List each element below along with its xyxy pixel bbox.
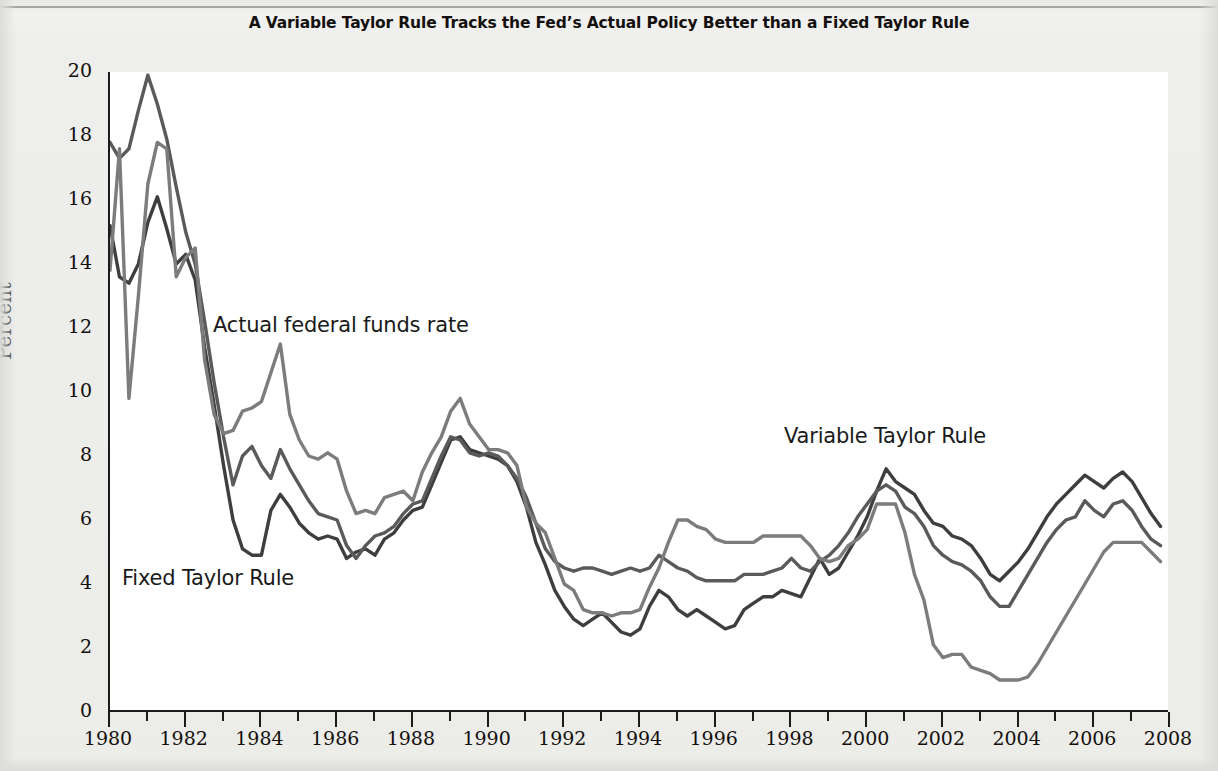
x-tick-mark-minor [146, 712, 148, 721]
y-axis-title: Percent [0, 282, 16, 360]
x-tick-mark-major [184, 712, 186, 727]
x-tick-mark-major [638, 712, 640, 727]
x-tick-mark-minor [827, 712, 829, 721]
x-tick-mark-major [562, 712, 564, 727]
x-tick-mark-major [789, 712, 791, 727]
x-tick-label: 1994 [603, 727, 673, 749]
x-tick-label: 1996 [679, 727, 749, 749]
x-tick-mark-minor [600, 712, 602, 721]
x-tick-mark-minor [676, 712, 678, 721]
x-tick-mark-major [714, 712, 716, 727]
y-tick-label: 6 [20, 507, 92, 529]
y-tick-label: 18 [20, 123, 92, 145]
y-tick-label: 4 [20, 571, 92, 593]
x-tick-mark-major [865, 712, 867, 727]
x-tick-label: 2006 [1057, 727, 1127, 749]
page-edge-shading-bottom [0, 757, 1218, 771]
x-tick-mark-minor [903, 712, 905, 721]
series-lines [110, 72, 1170, 712]
x-tick-mark-minor [373, 712, 375, 721]
x-tick-label: 1998 [754, 727, 824, 749]
y-tick-label: 0 [20, 699, 92, 721]
series-label-variable-taylor-rule: Variable Taylor Rule [784, 424, 986, 448]
page-edge-shading-right [1200, 0, 1218, 771]
x-tick-mark-minor [979, 712, 981, 721]
x-tick-label: 1980 [73, 727, 143, 749]
x-tick-label: 1984 [224, 727, 294, 749]
x-tick-mark-major [259, 712, 261, 727]
x-tick-mark-minor [1054, 712, 1056, 721]
page-edge-shading-left [0, 0, 16, 771]
x-tick-mark-major [108, 712, 110, 727]
series-label-actual-federal-funds-rate: Actual federal funds rate [213, 313, 469, 337]
x-tick-label: 1988 [376, 727, 446, 749]
x-tick-label: 1986 [300, 727, 370, 749]
top-rule-divider [0, 6, 1218, 8]
y-tick-label: 14 [20, 251, 92, 273]
y-tick-label: 10 [20, 379, 92, 401]
x-tick-label: 2002 [906, 727, 976, 749]
x-tick-mark-major [1017, 712, 1019, 727]
series-label-fixed-taylor-rule: Fixed Taylor Rule [122, 566, 294, 590]
y-tick-label: 8 [20, 443, 92, 465]
x-tick-mark-major [335, 712, 337, 727]
x-tick-mark-minor [1130, 712, 1132, 721]
x-tick-mark-minor [524, 712, 526, 721]
x-tick-label: 2004 [982, 727, 1052, 749]
x-tick-label: 1982 [149, 727, 219, 749]
x-tick-mark-major [411, 712, 413, 727]
x-tick-mark-major [941, 712, 943, 727]
plot-area [108, 72, 1168, 712]
y-tick-label: 12 [20, 315, 92, 337]
x-tick-mark-major [1092, 712, 1094, 727]
x-tick-label: 2008 [1133, 727, 1203, 749]
x-tick-mark-major [487, 712, 489, 727]
y-tick-label: 2 [20, 635, 92, 657]
x-tick-mark-minor [752, 712, 754, 721]
y-tick-label: 20 [20, 59, 92, 81]
chart-figure: A Variable Taylor Rule Tracks the Fed’s … [0, 0, 1218, 771]
x-tick-label: 1992 [527, 727, 597, 749]
page-title: A Variable Taylor Rule Tracks the Fed’s … [0, 14, 1218, 32]
x-tick-mark-minor [297, 712, 299, 721]
series-line-actual-federal-funds-rate [110, 142, 1161, 680]
x-tick-mark-major [1168, 712, 1170, 727]
x-tick-label: 1990 [452, 727, 522, 749]
x-tick-mark-minor [449, 712, 451, 721]
y-tick-label: 16 [20, 187, 92, 209]
x-tick-mark-minor [222, 712, 224, 721]
x-tick-label: 2000 [830, 727, 900, 749]
